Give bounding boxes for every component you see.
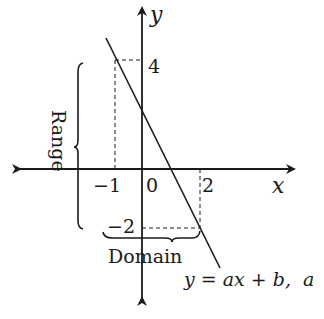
x-axis-label: x	[272, 173, 285, 198]
range-label: Range	[48, 110, 70, 172]
tick-label-x-2: 2	[202, 174, 214, 196]
y-axis-label: y	[149, 2, 163, 27]
tick-label-y-neg2: −2	[107, 215, 135, 237]
range-brace	[74, 63, 83, 229]
equation-label: y = ax + b, a	[183, 268, 314, 290]
tick-label-x-0: 0	[146, 174, 158, 196]
domain-label: Domain	[108, 245, 182, 267]
tick-label-x-neg1: −1	[93, 174, 121, 196]
tick-label-y-4: 4	[148, 55, 160, 77]
function-domain-range-diagram: y x 4 −1 0 2 −2 Range Domain y = ax + b,…	[0, 0, 324, 319]
